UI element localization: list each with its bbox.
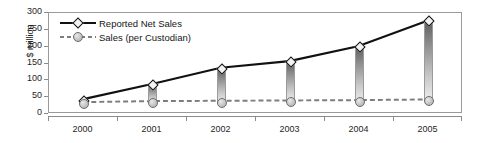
legend-key-dashed-circle [60,31,96,43]
x-axis-tick-mark [117,116,118,121]
y-axis-tick-mark [44,12,48,13]
y-axis-tick-mark [44,29,48,30]
legend-item-reported-net-sales: Reported Net Sales [60,16,260,30]
x-axis-tick-label: 2003 [260,124,320,134]
y-axis-tick-label: 0 [16,108,42,117]
y-axis-tick-mark [44,79,48,80]
x-axis-tick-mark [461,116,462,121]
circle-data-point-marker [79,99,89,109]
x-axis-tick-mark [324,116,325,121]
y-axis-tick-mark [44,46,48,47]
y-axis-tick-mark [44,113,48,114]
chart-legend: Reported Net Sales Sales (per Custodian) [60,16,260,44]
x-axis-tick-label: 2002 [191,124,251,134]
y-axis-tick-label: 50 [16,91,42,100]
net-sales-chart: $ million 300250200150100500 Reported Ne… [0,0,477,143]
x-axis-tick-mark [48,116,49,121]
y-axis-tick-label: 150 [16,58,42,67]
circle-marker-icon [73,32,83,42]
y-axis-tick-label: 250 [16,24,42,33]
x-axis-tick-mark [393,116,394,121]
circle-data-point-marker [217,98,227,108]
y-axis-tick-label: 200 [16,41,42,50]
legend-label: Reported Net Sales [99,18,182,29]
circle-data-point-marker [148,98,158,108]
legend-item-sales-per-custodian: Sales (per Custodian) [60,30,260,44]
x-axis-tick-label: 2004 [329,124,389,134]
series-line-2 [83,99,426,102]
y-axis-tick-label: 100 [16,74,42,83]
x-axis-tick-mark [255,116,256,121]
legend-key-solid-diamond [60,17,96,29]
legend-label: Sales (per Custodian) [99,32,191,43]
x-axis-tick-label: 2005 [398,124,458,134]
y-axis-tick-mark [44,96,48,97]
circle-data-point-marker [355,97,365,107]
y-axis-tick-label: 300 [16,7,42,16]
diamond-marker-icon [72,17,83,28]
x-axis-tick-label: 2001 [122,124,182,134]
circle-data-point-marker [286,97,296,107]
circle-data-point-marker [424,96,434,106]
y-axis-tick-labels: 300250200150100500 [12,0,42,143]
x-axis-tick-mark [186,116,187,121]
value-connector-bar [355,47,364,102]
y-axis-tick-mark [44,63,48,64]
x-axis-tick-label: 2000 [53,124,113,134]
value-connector-bar [424,21,433,101]
